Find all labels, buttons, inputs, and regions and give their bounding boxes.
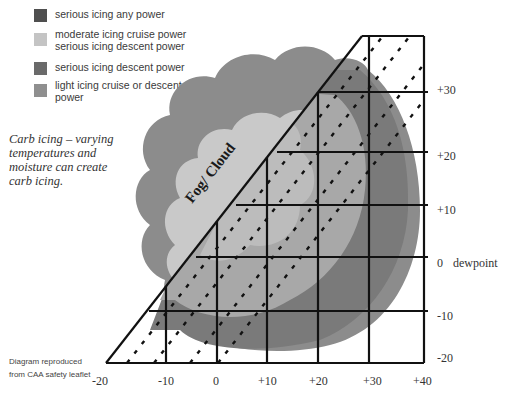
icing-diagram: Fog/ Cloud -20 -10 0 +10 +20 +30 +40 +30… [0,0,511,395]
x-tick: 0 [213,374,219,388]
x-tick: +40 [413,374,432,388]
x-axis-ticks: -20 -10 0 +10 +20 +30 +40 [92,374,432,388]
y-tick: +10 [437,203,456,217]
y-tick-dewpoint: dewpoint [453,256,498,270]
y-tick: -10 [437,309,453,323]
y-tick: +20 [437,149,456,163]
x-tick: +10 [258,374,277,388]
x-tick: +30 [363,374,382,388]
x-tick: -20 [92,374,108,388]
y-tick: 0 [437,256,443,270]
y-axis-ticks: +30 +20 +10 0 dewpoint -10 -20 [437,83,498,365]
x-tick: -10 [158,374,174,388]
y-tick: +30 [437,83,456,97]
y-tick: -20 [437,351,453,365]
x-tick: +20 [309,374,328,388]
